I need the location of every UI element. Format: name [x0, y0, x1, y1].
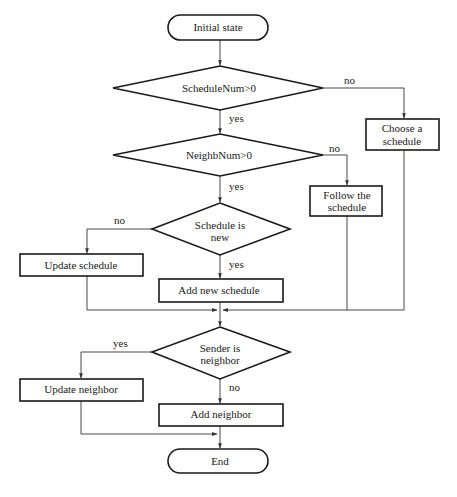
- edge-sender-neighbor-yes: [81, 352, 152, 378]
- label-neighb-num-no: no: [329, 142, 341, 154]
- decision-schedule-new: Schedule is new: [152, 203, 290, 255]
- process-choose-schedule-line2: schedule: [383, 135, 422, 147]
- decision-sender-neighbor: Sender is neighbor: [152, 327, 290, 379]
- label-schedule-num-yes: yes: [229, 112, 244, 124]
- label-schedule-new-no: no: [114, 214, 126, 226]
- process-follow-schedule: Follow the schedule: [310, 186, 382, 216]
- decision-sender-neighbor-line2: neighbor: [200, 354, 239, 366]
- decision-schedule-new-line1: Schedule is: [195, 219, 245, 231]
- process-update-neighbor-label: Update neighbor: [44, 383, 118, 395]
- process-update-neighbor: Update neighbor: [20, 379, 143, 401]
- label-sender-neighbor-yes: yes: [113, 337, 128, 349]
- process-choose-schedule-line1: Choose a: [382, 122, 423, 134]
- process-follow-schedule-line1: Follow the: [323, 189, 370, 201]
- decision-schedule-new-line2: new: [211, 231, 229, 243]
- process-update-schedule: Update schedule: [20, 254, 143, 276]
- label-neighb-num-yes: yes: [229, 180, 244, 192]
- decision-schedule-num: ScheduleNum>0: [113, 66, 323, 110]
- edge-schedule-new-no: [87, 229, 152, 253]
- label-schedule-new-yes: yes: [229, 258, 244, 270]
- decision-neighb-num-label: NeighbNum>0: [186, 149, 253, 161]
- label-schedule-num-no: no: [344, 74, 356, 86]
- node-end-label: End: [211, 455, 229, 467]
- process-add-neighbor-label: Add neighbor: [191, 408, 252, 420]
- label-sender-neighbor-no: no: [229, 381, 241, 393]
- decision-sender-neighbor-line1: Sender is: [200, 342, 241, 354]
- process-follow-schedule-line2: schedule: [328, 201, 367, 213]
- node-end: End: [168, 449, 268, 473]
- decision-neighb-num: NeighbNum>0: [113, 134, 323, 176]
- node-initial-state-label: Initial state: [193, 21, 242, 33]
- decision-schedule-num-label: ScheduleNum>0: [182, 82, 257, 94]
- process-update-schedule-label: Update schedule: [45, 259, 118, 271]
- edge-neighb-num-no: [323, 155, 347, 185]
- process-add-new-schedule-label: Add new schedule: [178, 284, 259, 296]
- edge-schedule-num-no: [323, 88, 404, 118]
- node-initial-state: Initial state: [168, 15, 268, 40]
- process-add-neighbor: Add neighbor: [159, 404, 283, 426]
- process-add-new-schedule: Add new schedule: [159, 279, 283, 302]
- process-choose-schedule: Choose a schedule: [366, 119, 439, 150]
- flowchart: no yes no yes no yes yes no Initial stat…: [0, 0, 457, 497]
